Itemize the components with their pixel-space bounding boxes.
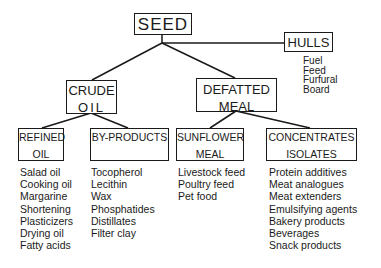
- isolates-line2: ISOLATES: [267, 149, 356, 160]
- seed-label: SEED: [135, 16, 191, 33]
- list-item: Filter clay: [91, 227, 155, 239]
- list-item: Plasticizers: [20, 215, 73, 227]
- seed-node: SEED: [134, 13, 192, 35]
- hulls-uses-list: Fuel Feed Furfural Board: [303, 56, 337, 94]
- refined-oil-uses-list: Salad oil Cooking oil Margarine Shorteni…: [20, 166, 73, 251]
- list-item: Bakery products: [269, 215, 357, 227]
- list-item: Meat analogues: [269, 178, 357, 190]
- list-item: Emulsifying agents: [269, 203, 357, 215]
- list-item: Beverages: [269, 227, 357, 239]
- list-item: Pet food: [178, 190, 245, 202]
- list-item: Wax: [91, 190, 155, 202]
- list-item: Salad oil: [20, 166, 73, 178]
- crude-oil-line2: OIL: [67, 101, 116, 114]
- list-item: Cooking oil: [20, 178, 73, 190]
- sunflower-meal-uses-list: Livestock feed Poultry feed Pet food: [178, 166, 245, 203]
- refined-oil-line1: REFINED: [19, 132, 63, 143]
- defatted-meal-line1: DEFATTED: [197, 83, 276, 96]
- by-products-uses-list: Tocopherol Lecithin Wax Phosphatides Dis…: [91, 166, 155, 239]
- hulls-label: HULLS: [285, 36, 332, 49]
- list-item: Protein additives: [269, 166, 357, 178]
- concentrates-uses-list: Protein additives Meat analogues Meat ex…: [269, 166, 357, 251]
- list-item: Margarine: [20, 190, 73, 202]
- list-item: Shortening: [20, 203, 73, 215]
- concentrates-isolates-node: CONCENTRATES ISOLATES: [266, 128, 357, 161]
- hulls-node: HULLS: [284, 32, 333, 52]
- refined-oil-line2: OIL: [19, 149, 63, 160]
- list-item: Poultry feed: [178, 178, 245, 190]
- list-item: Drying oil: [20, 227, 73, 239]
- list-item: Fatty acids: [20, 239, 73, 251]
- sunflower-meal-node: SUNFLOWER MEAL: [176, 128, 244, 161]
- defatted-meal-node: DEFATTED MEAL: [196, 78, 277, 112]
- by-products-node: BY-PRODUCTS: [90, 128, 169, 161]
- crude-oil-node: CRUDE OIL: [66, 80, 117, 114]
- list-item: Distillates: [91, 215, 155, 227]
- crude-oil-line1: CRUDE: [67, 84, 116, 97]
- list-item: Phosphatides: [91, 203, 155, 215]
- list-item: Meat extenders: [269, 190, 357, 202]
- sunflower-meal-line2: MEAL: [177, 149, 243, 160]
- defatted-meal-line2: MEAL: [197, 100, 276, 113]
- refined-oil-node: REFINED OIL: [18, 128, 64, 161]
- list-item: Tocopherol: [91, 166, 155, 178]
- list-item: Snack products: [269, 239, 357, 251]
- by-products-line1: BY-PRODUCTS: [91, 132, 168, 143]
- list-item: Livestock feed: [178, 166, 245, 178]
- concentrates-line1: CONCENTRATES: [267, 132, 356, 143]
- sunflower-meal-line1: SUNFLOWER: [177, 132, 243, 143]
- list-item: Board: [303, 85, 337, 95]
- list-item: Lecithin: [91, 178, 155, 190]
